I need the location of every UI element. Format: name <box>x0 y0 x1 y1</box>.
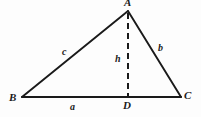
side-label-b: b <box>158 43 163 53</box>
triangle-graphic <box>0 0 201 117</box>
side-label-c: c <box>62 47 66 57</box>
vertex-label-a: A <box>124 0 131 8</box>
vertex-label-c: C <box>184 90 191 101</box>
triangle-diagram: A B C D a b c h <box>0 0 201 117</box>
side-label-a: a <box>70 102 75 112</box>
vertex-label-d: D <box>123 100 131 111</box>
side-b-right-line <box>128 11 181 97</box>
altitude-label-h: h <box>115 54 121 64</box>
side-c-left-line <box>22 11 128 97</box>
vertex-label-b: B <box>9 92 16 103</box>
